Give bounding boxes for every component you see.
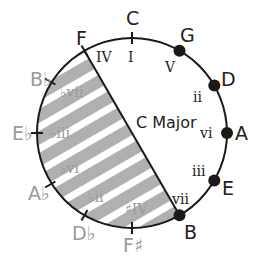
note-label-aflat: A♭ [28,182,50,204]
note-label-g: G [180,24,195,46]
note-label-b: B [184,221,197,243]
note-label-dflat: D♭ [72,222,96,244]
dot-e [208,175,220,187]
note-label-fsharp: F♯ [123,234,143,256]
degree-label-flat-ii: ♭ii [88,189,104,205]
degree-label-iii: iii [192,163,206,179]
degree-label-flat-vii: ♭vii [60,84,84,100]
dot-d [208,80,220,92]
circle-of-fifths-diagram: C G D A E B F♯ D♭ A♭ E♭ B♭ F I V ii vi i… [0,0,259,260]
note-label-d: D [221,68,236,90]
note-label-f: F [76,27,87,49]
degree-label-iv: IV [96,49,113,65]
degree-label-ii: ii [193,89,202,105]
degree-label-sharp-iv: ♯IV [125,201,148,217]
degree-label-flat-vi: ♭vi [60,160,80,176]
degree-label-i: I [128,49,134,65]
dot-g [174,45,186,57]
degree-label-flat-iii: ♭iii [50,125,71,141]
degree-label-vi: vi [199,125,213,141]
note-label-c: C [126,7,139,29]
degree-label-v: V [164,59,176,75]
note-label-a: A [235,122,248,144]
dot-a [221,127,233,139]
dot-b [174,209,186,221]
note-label-e: E [222,177,234,199]
note-label-eflat: E♭ [12,122,33,144]
note-label-bflat: B♭ [30,68,52,90]
degree-label-vii: vii [171,191,189,207]
key-title: C Major [136,113,197,132]
